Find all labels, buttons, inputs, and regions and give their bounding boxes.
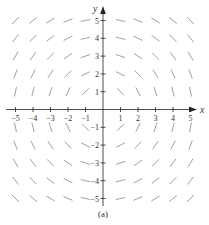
x-tick-label: 2 (136, 114, 140, 123)
slope-segment (188, 52, 193, 60)
y-tick-label: 2 (95, 70, 99, 79)
x-tick-label: 3 (154, 114, 158, 123)
slope-segment (171, 141, 175, 149)
slope-segment (81, 198, 90, 200)
x-tick-label: −3 (46, 114, 55, 123)
slope-segment (188, 35, 194, 42)
slope-segment (170, 35, 176, 41)
slope-segment (189, 141, 192, 149)
slope-segment (48, 141, 53, 149)
slope-segment (116, 180, 125, 182)
slope-segment (47, 178, 54, 183)
slope-segment (116, 161, 125, 164)
slope-segment (187, 195, 193, 201)
slope-segment (47, 196, 55, 201)
slope-segment (170, 52, 175, 59)
slope-segment (14, 70, 17, 78)
slope-segment (82, 88, 88, 94)
slope-segment (170, 18, 177, 24)
slope-segment (47, 36, 54, 41)
x-axis-label: x (199, 104, 205, 115)
x-tick-label: −4 (29, 114, 38, 123)
x-tick-label: −1 (81, 114, 90, 123)
slope-segment (47, 160, 53, 166)
slope-segment (188, 177, 194, 184)
slope-segment (134, 197, 142, 200)
slope-segment (116, 37, 125, 39)
x-tick-label: −5 (11, 114, 20, 123)
slope-segment (134, 54, 141, 59)
y-axis-label: y (92, 3, 98, 14)
slope-segment (152, 178, 159, 183)
y-axis-arrow-icon (100, 6, 106, 14)
slope-segment (116, 72, 124, 76)
slope-segment (13, 177, 19, 184)
slope-segment (66, 123, 70, 131)
slope-segment (154, 87, 157, 96)
slope-segment (116, 143, 124, 147)
slope-field-figure: −5−4−3−2−112345 54321−1−2−3−4−5 x y (a) (0, 0, 209, 225)
slope-segment (134, 160, 141, 165)
slope-segment (172, 87, 174, 96)
slope-segment (136, 123, 140, 131)
slope-segment (190, 87, 192, 96)
y-tick-label: −2 (90, 141, 99, 150)
y-tick-label: −3 (90, 159, 99, 168)
slope-segment (134, 36, 142, 40)
slope-segment (30, 18, 37, 24)
slope-segment (152, 18, 160, 23)
slope-segment (152, 160, 158, 166)
y-tick-label: 1 (95, 88, 99, 97)
slope-segment (189, 70, 192, 78)
slope-segment (81, 55, 90, 58)
slope-segment (30, 159, 35, 166)
slope-segment (170, 159, 175, 166)
slope-segment (135, 142, 141, 148)
slope-segment (64, 54, 71, 59)
slope-segment (117, 88, 123, 94)
slope-segment (134, 179, 142, 183)
x-tick-label: −2 (64, 114, 73, 123)
slope-segment (31, 70, 35, 78)
slope-segment (116, 20, 125, 22)
slope-segment (30, 52, 35, 59)
slope-segment (12, 17, 18, 23)
slope-segment (47, 53, 53, 59)
slope-segment (152, 196, 160, 201)
slope-segment (116, 55, 125, 58)
slope-segment (64, 36, 72, 40)
slope-segment (12, 195, 18, 201)
slope-segment (81, 37, 90, 39)
slope-segment (31, 141, 35, 149)
figure-caption: (a) (98, 209, 108, 219)
slope-segment (81, 72, 89, 76)
y-tick-label: −4 (90, 177, 99, 186)
slope-segment (49, 123, 52, 132)
slope-segment (134, 19, 142, 22)
slope-segment (32, 87, 34, 96)
slope-segment (170, 177, 176, 183)
slope-segment (30, 35, 36, 41)
slope-segment (30, 177, 36, 183)
slope-segment (190, 123, 192, 132)
slope-segment (64, 160, 71, 165)
slope-segment (65, 142, 71, 148)
slope-segment (13, 159, 18, 167)
x-tick-label: 4 (171, 114, 175, 123)
slope-segment (81, 143, 89, 147)
y-tick-label: 3 (95, 52, 99, 61)
slope-segment (47, 18, 55, 23)
slope-segment (172, 123, 174, 132)
slope-segment (153, 70, 158, 78)
slope-segment (170, 196, 177, 202)
slope-segment (66, 88, 70, 96)
slope-segment (48, 70, 53, 78)
slope-segment (81, 180, 90, 182)
y-tick-label: −1 (90, 123, 99, 132)
y-tick-label: 4 (95, 34, 99, 43)
slope-segment (152, 36, 159, 41)
slope-segment (13, 52, 18, 60)
y-tick-label: 5 (95, 17, 99, 26)
slope-segment (64, 179, 72, 183)
slope-segment (117, 124, 123, 130)
